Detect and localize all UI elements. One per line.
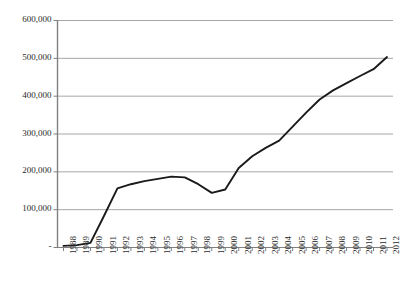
x-axis-tick-label: 1994: [148, 236, 158, 254]
x-axis-tick-label: 1992: [121, 236, 131, 254]
gridlines: [58, 21, 394, 210]
x-axis-tick-label: 1988: [68, 236, 78, 254]
x-axis-tick-label: 1991: [108, 236, 118, 254]
y-axis-tick-label: -: [49, 241, 52, 251]
y-axis-tick-label: 400,000: [22, 90, 51, 100]
x-axis-tick-label: 2011: [378, 236, 388, 254]
y-axis-tick-label: 200,000: [22, 165, 51, 175]
data-line-series-0: [64, 57, 388, 246]
x-axis-tick-label: 1995: [162, 236, 172, 254]
x-axis-tick-label: 2003: [270, 236, 280, 254]
x-axis-tick-label: 1989: [81, 236, 91, 254]
x-axis-tick-label: 2009: [351, 236, 361, 254]
y-axis-tick-label: 600,000: [22, 14, 51, 24]
y-axis-tick-label: 100,000: [22, 203, 51, 213]
x-axis-tick-label: 1999: [216, 236, 226, 254]
x-axis-tick-label: 2010: [364, 236, 374, 254]
x-axis-tick-label: 2001: [243, 236, 253, 254]
x-axis-tick-label: 1996: [175, 236, 185, 254]
x-axis-tick-label: 2012: [391, 236, 401, 254]
x-axis-tick-label: 2005: [297, 236, 307, 254]
x-axis-tick-label: 2002: [256, 236, 266, 254]
x-axis-tick-label: 2006: [310, 236, 320, 254]
x-axis-tick-label: 1993: [135, 236, 145, 254]
data-series-layer: [64, 57, 388, 246]
line-chart: 600,000500,000400,000300,000200,000100,0…: [0, 0, 407, 287]
x-axis-tick-label: 1997: [189, 236, 199, 254]
x-axis-tick-label: 2000: [229, 236, 239, 254]
x-axis-tick-label: 1990: [94, 236, 104, 254]
x-axis-tick-label: 1998: [202, 236, 212, 254]
y-axis-tick-label: 500,000: [22, 52, 51, 62]
x-axis-tick-label: 2004: [283, 236, 293, 254]
y-axis-tick-label: 300,000: [22, 128, 51, 138]
x-axis-tick-label: 2007: [324, 236, 334, 254]
x-axis-tick-label: 2008: [337, 236, 347, 254]
